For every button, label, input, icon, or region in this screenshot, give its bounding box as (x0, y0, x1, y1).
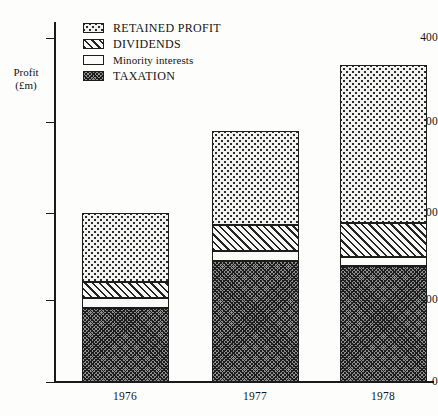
legend-swatch-minority-interests-icon (83, 55, 104, 65)
legend-swatch-dividends-icon (83, 39, 104, 49)
y-axis-title-line1: Profit (2, 66, 50, 79)
y-tick-300 (46, 122, 54, 123)
legend-swatch-taxation-icon (83, 71, 104, 81)
bar-1976-segment-taxation (82, 308, 169, 382)
legend-label-dividends: DIVIDENDS (113, 38, 181, 50)
legend-label-minority-interests: Minority interests (113, 54, 193, 66)
y-tick-0 (46, 382, 54, 383)
x-axis-label-1977: 1977 (210, 390, 300, 402)
bar-1977 (212, 131, 299, 382)
bar-1978-segment-retained-profit (340, 65, 427, 223)
chart-legend: RETAINED PROFIT DIVIDENDS Minority inter… (83, 20, 221, 84)
legend-item-minority-interests: Minority interests (83, 52, 221, 67)
y-tick-200 (46, 213, 54, 214)
bar-1976 (82, 213, 169, 382)
y-tick-400 (46, 38, 54, 39)
bar-1978 (340, 65, 427, 382)
bar-1978-segment-minority-interests (340, 257, 427, 266)
bar-1977-segment-minority-interests (212, 251, 299, 261)
bar-1976-segment-retained-profit (82, 213, 169, 282)
y-tick-100 (46, 300, 54, 301)
bar-1978-segment-dividends (340, 223, 427, 257)
legend-item-taxation: TAXATION (83, 68, 221, 83)
legend-item-dividends: DIVIDENDS (83, 36, 221, 51)
stacked-bar-chart: 400 300 200 100 0 Profit (£m) 1976 1977 … (0, 0, 438, 416)
legend-label-retained-profit: RETAINED PROFIT (113, 22, 221, 34)
legend-swatch-retained-profit-icon (83, 23, 104, 33)
bar-1977-segment-taxation (212, 261, 299, 382)
legend-label-taxation: TAXATION (113, 70, 175, 82)
bar-1977-segment-dividends (212, 225, 299, 251)
bar-1977-segment-retained-profit (212, 131, 299, 225)
y-axis-line (54, 22, 56, 383)
y-tick-label-400: 400 (398, 32, 438, 43)
legend-item-retained-profit: RETAINED PROFIT (83, 20, 221, 35)
y-axis-title-line2: (£m) (2, 79, 50, 92)
bar-1978-segment-taxation (340, 266, 427, 382)
x-axis-label-1976: 1976 (80, 390, 170, 402)
bar-1976-segment-dividends (82, 282, 169, 298)
bar-1976-segment-minority-interests (82, 298, 169, 308)
x-axis-label-1978: 1978 (338, 390, 428, 402)
